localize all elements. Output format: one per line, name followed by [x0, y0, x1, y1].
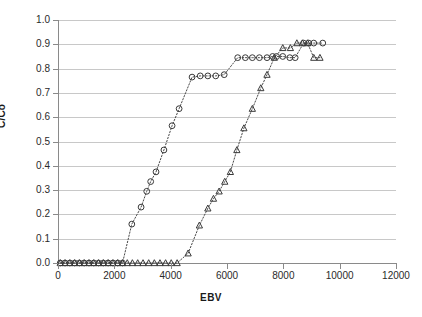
- x-tick-mark: [227, 264, 228, 269]
- y-tick-label: 0.4: [18, 161, 50, 171]
- y-tick-label: 0.3: [18, 185, 50, 195]
- y-tick-mark: [53, 142, 58, 143]
- x-tick-mark: [396, 264, 397, 269]
- x-tick-label: 10000: [310, 271, 370, 281]
- x-tick-mark: [283, 264, 284, 269]
- chart-container: C/Co EBV 0.00.10.20.30.40.50.60.70.80.91…: [0, 0, 422, 317]
- x-tick-mark: [58, 264, 59, 269]
- x-tick-mark: [340, 264, 341, 269]
- y-tick-mark: [53, 69, 58, 70]
- series-trendline: [60, 43, 320, 263]
- y-tick-mark: [53, 214, 58, 215]
- x-tick-label: 4000: [141, 271, 201, 281]
- x-tick-label: 2000: [84, 271, 144, 281]
- y-tick-label: 1.0: [18, 15, 50, 25]
- x-tick-label: 0: [28, 271, 88, 281]
- y-tick-label: 0.2: [18, 209, 50, 219]
- y-tick-mark: [53, 93, 58, 94]
- y-tick-mark: [53, 166, 58, 167]
- x-tick-label: 8000: [253, 271, 313, 281]
- x-tick-label: 6000: [197, 271, 257, 281]
- x-axis-title: EBV: [0, 292, 422, 303]
- y-tick-mark: [53, 117, 58, 118]
- y-tick-mark: [53, 44, 58, 45]
- x-tick-mark: [114, 264, 115, 269]
- y-tick-label: 0.8: [18, 64, 50, 74]
- y-tick-label: 0.6: [18, 112, 50, 122]
- y-tick-label: 0.9: [18, 39, 50, 49]
- x-tick-mark: [171, 264, 172, 269]
- data-series-layer: [0, 0, 422, 317]
- series-trendline: [60, 43, 323, 263]
- y-tick-label: 0.5: [18, 137, 50, 147]
- y-tick-label: 0.0: [18, 258, 50, 268]
- x-tick-label: 12000: [366, 271, 422, 281]
- y-tick-mark: [53, 190, 58, 191]
- y-tick-label: 0.1: [18, 234, 50, 244]
- y-tick-mark: [53, 20, 58, 21]
- data-point-triangle: [196, 222, 202, 228]
- y-tick-label: 0.7: [18, 88, 50, 98]
- y-tick-mark: [53, 239, 58, 240]
- y-axis-title: C/Co: [0, 104, 7, 128]
